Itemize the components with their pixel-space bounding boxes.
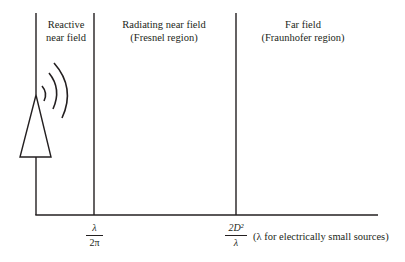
region-label-reactive-line1: Reactive — [48, 19, 85, 30]
region-label-radiating-line2: (Fresnel region) — [130, 32, 197, 43]
fraction-denominator: λ — [225, 237, 247, 249]
wave-arc-medium — [49, 73, 57, 109]
antenna-icon — [20, 95, 51, 157]
region-label-far: Far field (Fraunhofer region) — [258, 18, 348, 44]
wave-arc-small — [42, 86, 46, 101]
fraction-numerator: 2D² — [225, 222, 247, 234]
boundary-label-2d2-over-lambda: 2D² λ — [225, 222, 247, 249]
region-label-far-line1: Far field — [285, 19, 321, 30]
region-label-radiating-line1: Radiating near field — [122, 19, 205, 30]
region-label-radiating: Radiating near field (Fresnel region) — [112, 18, 216, 44]
fraction-numerator: λ — [86, 222, 103, 234]
fraction-bar — [86, 235, 103, 236]
region-label-far-line2: (Fraunhofer region) — [261, 32, 344, 43]
region-label-reactive-line2: near field — [46, 32, 86, 43]
fraction-denominator: 2π — [86, 237, 103, 249]
region-label-reactive: Reactive near field — [38, 18, 94, 44]
boundary-label-lambda-over-2pi: λ 2π — [86, 222, 103, 249]
boundary-note-small-sources: (λ for electrically small sources) — [253, 231, 389, 242]
fraction-bar — [225, 235, 247, 236]
